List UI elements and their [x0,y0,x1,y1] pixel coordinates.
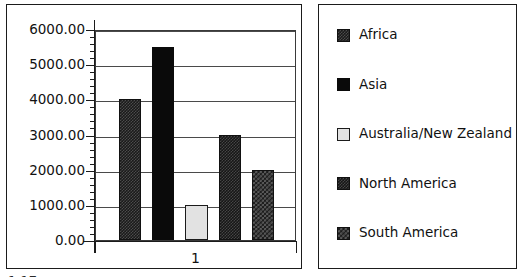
legend-panel: AfricaAsiaAustralia/New ZealandNorth Ame… [318,4,517,269]
legend-swatch-icon [337,177,350,190]
y-axis-tick-label: 3000.00 [29,129,85,143]
x-tick [296,241,297,253]
chart-screenshot: 6000.005000.004000.003000.002000.001000.… [0,0,523,277]
legend-item[interactable]: North America [337,176,457,192]
legend-swatch-icon [337,227,350,240]
y-axis-tick-label: 1000.00 [29,199,85,213]
chart-panel: 6000.005000.004000.003000.002000.001000.… [6,4,302,269]
legend-item-label: Australia/New Zealand [359,127,512,141]
y-axis-labels: 6000.005000.004000.003000.002000.001000.… [11,5,85,268]
gridline [96,66,295,67]
legend-item[interactable]: Africa [337,27,398,43]
x-axis-line [83,241,297,242]
legend-item-label: North America [359,177,457,191]
x-axis-tick-label: 1 [95,251,296,265]
legend-swatch-icon [337,29,350,42]
plot-area [95,30,296,241]
y-axis-tick-label: 4000.00 [29,94,85,108]
bar [252,170,274,240]
legend-item-label: Asia [359,78,387,92]
legend-item-label: South America [359,226,458,240]
bar [152,47,174,240]
plot-wrap: 6000.005000.004000.003000.002000.001000.… [7,5,301,268]
y-axis-tick-label: 6000.00 [29,23,85,37]
legend-swatch-icon [337,78,350,91]
y-axis-tick-label: 2000.00 [29,164,85,178]
legend-item-label: Africa [359,28,398,42]
y-axis-tick-label: 0.00 [55,234,85,248]
legend-item[interactable]: South America [337,225,458,241]
gridline [96,31,295,32]
legend-swatch-icon [337,128,350,141]
y-axis-tick-label: 5000.00 [29,58,85,72]
legend-item[interactable]: Asia [337,77,387,93]
legend-item[interactable]: Australia/New Zealand [337,126,512,142]
bar [119,99,141,240]
bar [219,135,241,241]
bar [185,205,207,240]
